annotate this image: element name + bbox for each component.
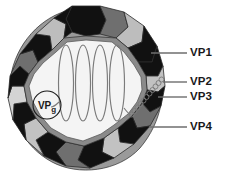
label-vp4: VP4 [190,121,212,133]
label-vp3: VP3 [190,91,212,103]
vpg-label-main: VP [38,100,52,111]
label-vp2: VP2 [190,76,212,88]
label-vp1: VP1 [190,47,212,59]
vpg-label-subscript: g [51,105,56,114]
virion-figure: VPg VP1 VP2 VP3 VP4 [0,0,227,179]
capsid-shell [8,6,165,170]
